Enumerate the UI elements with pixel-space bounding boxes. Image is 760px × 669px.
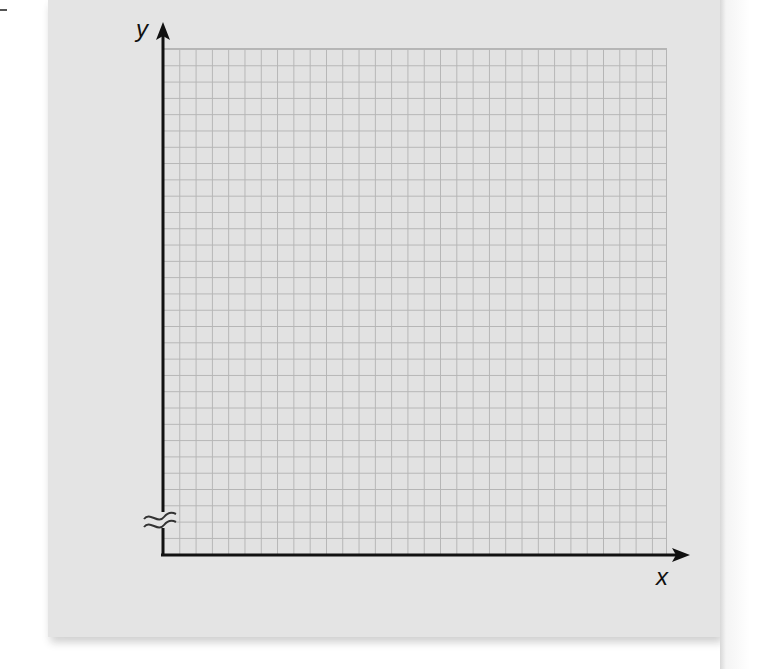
- axes: [0, 0, 760, 669]
- axis-break-icon: [144, 512, 176, 528]
- y-axis-label: y: [136, 17, 148, 41]
- x-axis-label: x: [656, 565, 668, 589]
